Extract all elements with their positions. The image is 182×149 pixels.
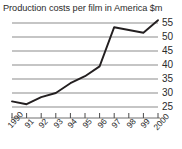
x-tick-label: 94 — [66, 117, 78, 130]
x-tick-label: 93 — [52, 117, 64, 130]
x-tick-label: 96 — [96, 117, 108, 130]
chart-container: Production costs per film in America $m — [0, 0, 182, 149]
x-tick-label: 2000 — [152, 112, 171, 131]
x-tick-label: 98 — [125, 117, 137, 130]
x-tick-label: 1990 — [6, 110, 25, 129]
x-tick-label: 91 — [23, 117, 35, 130]
x-tick-label: 95 — [81, 117, 93, 130]
x-tick-label: 92 — [37, 117, 49, 130]
x-tick-label: 99 — [139, 117, 151, 130]
x-tick-label: 97 — [110, 117, 122, 130]
x-axis-labels: 1990 91 92 93 94 95 96 97 98 99 2000 — [0, 0, 182, 149]
